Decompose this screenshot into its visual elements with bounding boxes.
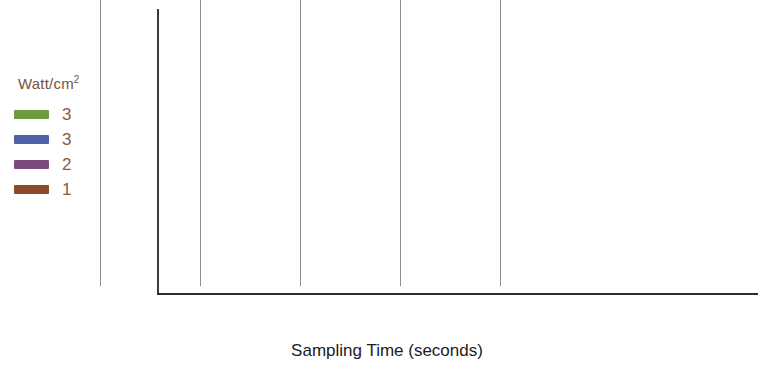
line-chart: Watt/cm2 3 3 2 1 Sampling Time (seconds): [0, 0, 774, 369]
legend-label-0: 3: [62, 106, 71, 123]
legend-title-text: Watt/cm: [18, 75, 74, 92]
legend-swatch-brown: [14, 185, 49, 194]
legend-label-3: 1: [62, 181, 71, 198]
legend-label-1: 3: [62, 131, 71, 148]
legend-item-0: 3: [14, 102, 124, 127]
legend-title-superscript: 2: [74, 74, 80, 85]
legend-title: Watt/cm2: [14, 74, 124, 92]
x-axis-title: Sampling Time (seconds): [0, 341, 774, 361]
legend-swatch-green: [14, 110, 49, 119]
gridline-30: [100, 0, 101, 286]
legend-item-2: 2: [14, 152, 124, 177]
gridline-120: [400, 0, 401, 286]
chart-legend: Watt/cm2 3 3 2 1: [14, 74, 124, 202]
y-axis-line: [157, 9, 159, 295]
legend-label-2: 2: [62, 156, 71, 173]
legend-swatch-blue: [14, 135, 49, 144]
legend-item-3: 1: [14, 177, 124, 202]
gridline-60: [200, 0, 201, 286]
gridline-150: [500, 0, 501, 286]
x-axis-line: [157, 293, 758, 295]
legend-item-1: 3: [14, 127, 124, 152]
legend-swatch-purple: [14, 160, 49, 169]
gridline-90: [300, 0, 301, 286]
